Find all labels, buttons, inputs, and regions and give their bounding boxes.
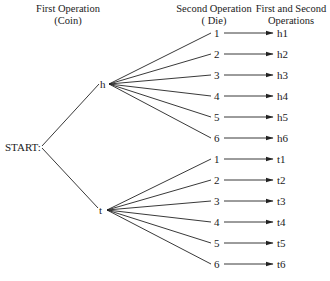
combined-outcome: h5	[277, 111, 289, 123]
die-face: 3	[214, 69, 220, 81]
die-face: 5	[214, 111, 220, 123]
die-face: 1	[214, 27, 220, 39]
die-face: 3	[214, 195, 220, 207]
combined-outcome: t6	[277, 258, 286, 270]
coin-node-t: t	[99, 204, 102, 216]
combined-outcome: t3	[277, 195, 286, 207]
header-second-operation-line2: ( Die)	[202, 15, 227, 27]
header-second-operation-line1: Second Operation	[176, 3, 252, 14]
combined-outcome: h2	[277, 48, 288, 60]
die-face: 4	[214, 90, 220, 102]
combined-outcome: t2	[277, 174, 286, 186]
die-face: 1	[214, 153, 220, 165]
die-face: 2	[214, 48, 220, 60]
t-branches	[107, 159, 211, 264]
coin-node-h: h	[100, 78, 106, 90]
header-combined-line1: First and Second	[256, 3, 327, 14]
combined-outcome: h6	[277, 132, 289, 144]
header-second-operation: Second Operation ( Die)	[176, 3, 252, 27]
header-combined-operations: First and Second Operations	[256, 3, 327, 26]
combined-outcome: t1	[277, 153, 286, 165]
header-first-operation-line2: (Coin)	[54, 15, 82, 27]
edge-start-to-h	[42, 84, 99, 146]
die-face: 2	[214, 174, 220, 186]
h-outcomes: 1 h1 2 h2 3 h3 4 h4 5 h5 6 h6	[214, 27, 289, 144]
combined-outcome: h1	[277, 27, 288, 39]
die-face: 6	[214, 258, 220, 270]
die-face: 5	[214, 237, 220, 249]
combined-outcome: h4	[277, 90, 289, 102]
combined-outcome: t4	[277, 216, 286, 228]
h-branches	[109, 33, 211, 138]
tree-diagram: First Operation (Coin) Second Operation …	[0, 0, 330, 281]
header-combined-line2: Operations	[268, 15, 314, 26]
die-face: 4	[214, 216, 220, 228]
header-first-operation-line1: First Operation	[36, 3, 101, 14]
edge-start-to-t	[42, 148, 98, 208]
combined-outcome: h3	[277, 69, 289, 81]
root-node-start: START:	[5, 141, 41, 153]
die-face: 6	[214, 132, 220, 144]
header-first-operation: First Operation (Coin)	[36, 3, 101, 27]
t-outcomes: 1 t1 2 t2 3 t3 4 t4 5 t5 6 t6	[214, 153, 286, 270]
combined-outcome: t5	[277, 237, 286, 249]
